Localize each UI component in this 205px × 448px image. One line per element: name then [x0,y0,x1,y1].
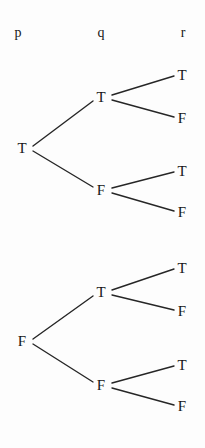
edges-group [33,76,174,405]
tree-node-leaf-ftt: T [174,261,190,276]
column-header-p: p [8,26,28,40]
truth-tree-figure: pqr TFTFTFTFTFTFTF [0,0,205,448]
tree-node-root-t: T [14,141,30,156]
tree-edge [33,151,93,187]
tree-edge [112,76,174,95]
tree-node-leaf-fff: F [174,399,190,414]
tree-node-leaf-ttt: T [174,68,190,83]
column-header-q: q [91,26,111,40]
tree-edge [33,101,93,146]
tree-node-t-t: T [93,90,109,105]
tree-node-f-t: T [93,285,109,300]
tree-edge [33,296,93,339]
tree-edge [112,295,174,310]
tree-node-leaf-tft: T [174,164,190,179]
tree-edge [112,172,174,188]
tree-edge [112,388,174,405]
tree-node-t-f: F [93,183,109,198]
tree-edge [112,366,174,383]
tree-node-leaf-tff: F [174,205,190,220]
tree-edge [112,193,174,211]
tree-node-root-f: F [14,334,30,349]
tree-edge [112,269,174,290]
tree-node-leaf-ftf: F [174,304,190,319]
tree-node-leaf-ttf: F [174,111,190,126]
tree-edge [33,344,93,382]
tree-node-leaf-fft: T [174,358,190,373]
tree-edge [112,100,174,117]
tree-node-f-f: F [93,378,109,393]
column-header-r: r [173,26,193,40]
